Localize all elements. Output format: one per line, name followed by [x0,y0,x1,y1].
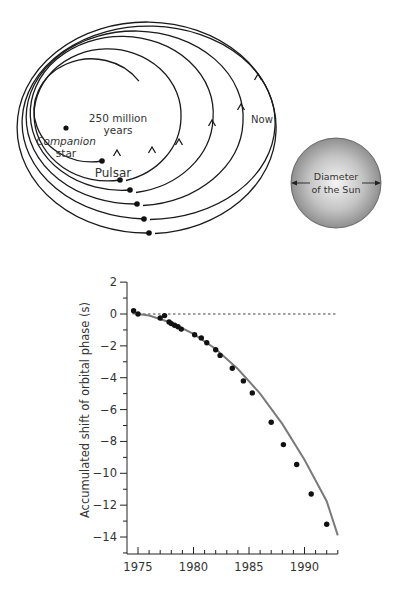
data-point [131,308,136,313]
time-label-line1: 250 million [89,112,147,124]
y-tick-label: 2 [110,275,117,289]
x-tick-label: 1980 [179,560,208,574]
y-axis: 20−2−4−6−8−10−12−14 [93,275,127,554]
orbit-diagram [17,22,276,236]
data-point [213,347,218,352]
prediction-curve [132,313,337,535]
now-label: Now [251,114,273,125]
data-point [162,313,167,318]
y-tick-label: −6 [100,403,117,417]
data-point [324,522,329,527]
companion-label-line2: star [56,147,77,159]
y-tick-label: 0 [110,307,117,321]
phase-shift-chart: 20−2−4−6−8−10−12−14 1975198019851990 Acc… [78,275,338,574]
pulsar-position-dot [146,230,152,236]
data-point [192,332,197,337]
y-tick-label: −14 [93,530,117,544]
y-axis-label: Accumulated shift of orbital phase (s) [78,302,92,518]
direction-arrow-icon [255,74,262,80]
pulsar-label: Pulsar [95,166,132,180]
gr-prediction-line [132,313,337,535]
pulsar-position-dot [99,158,105,164]
companion-star-dot [63,125,68,130]
data-point [281,442,286,447]
y-tick-label: −8 [100,434,117,448]
direction-arrow-icon [149,147,156,153]
x-tick-label: 1990 [290,560,319,574]
y-tick-label: −2 [100,339,117,353]
x-axis: 1975198019851990 [123,547,337,574]
data-point [250,390,255,395]
data-point [204,340,209,345]
observed-data-points [131,308,329,527]
pulsar-position-dot [134,201,140,207]
y-tick-label: −4 [100,371,117,385]
pulsar-figure: Companion star 250 million years Pulsar … [0,0,401,604]
data-point [199,335,204,340]
sun-label-line2: of the Sun [312,184,361,195]
data-point [309,491,314,496]
y-tick-label: −10 [93,466,117,480]
direction-arrow-icon [114,150,121,156]
time-label-line2: years [104,124,133,136]
data-point [269,420,274,425]
pulsar-position-dot [127,187,133,193]
sun-scale-reference: Diameter of the Sun [291,138,381,228]
sun-label-line1: Diameter [314,171,358,182]
companion-label-line1: Companion [36,135,96,147]
data-point [217,353,222,358]
data-point [230,366,235,371]
pulsar-position-dot [141,216,147,222]
data-point [241,378,246,383]
direction-arrow-icon [238,104,245,110]
data-point [179,326,184,331]
companion-star: Companion star [36,125,96,159]
x-tick-label: 1975 [123,560,152,574]
data-point [294,462,299,467]
x-tick-label: 1985 [234,560,263,574]
data-point [135,311,140,316]
y-tick-label: −12 [93,498,117,512]
